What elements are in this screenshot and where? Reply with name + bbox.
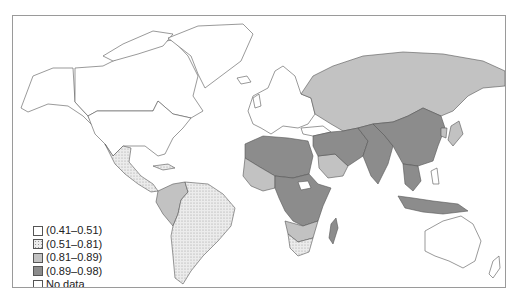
region-australia — [425, 216, 481, 268]
legend-swatch-no-data — [33, 280, 43, 288]
legend-swatch-dotted — [33, 239, 43, 249]
legend-label: No data — [46, 278, 85, 288]
region-caribbean — [153, 164, 175, 170]
legend-label: (0.41–0.51) — [46, 224, 102, 238]
region-new-zealand — [489, 256, 500, 278]
region-iceland — [237, 76, 251, 84]
region-madagascar — [329, 218, 338, 244]
legend-label: (0.89–0.98) — [46, 265, 102, 279]
legend-item: (0.51–0.81) — [33, 238, 102, 252]
legend-label: (0.81–0.89) — [46, 251, 102, 265]
region-philippines — [431, 168, 439, 184]
legend-label: (0.51–0.81) — [46, 238, 102, 252]
legend-swatch-dark-gray — [33, 266, 43, 276]
legend-item: (0.81–0.89) — [33, 251, 102, 265]
region-korea — [441, 128, 447, 138]
region-southeast-asia — [403, 164, 421, 191]
map-frame: (0.41–0.51) (0.51–0.81) (0.81–0.89) (0.8… — [12, 15, 506, 288]
map-legend: (0.41–0.51) (0.51–0.81) (0.81–0.89) (0.8… — [33, 224, 102, 288]
legend-swatch-light-gray — [33, 253, 43, 263]
legend-item: (0.41–0.51) — [33, 224, 102, 238]
legend-item: (0.89–0.98) — [33, 265, 102, 279]
legend-item: No data — [33, 278, 102, 288]
region-japan — [448, 121, 463, 146]
region-indonesia — [398, 196, 468, 214]
legend-swatch-white — [33, 226, 43, 236]
